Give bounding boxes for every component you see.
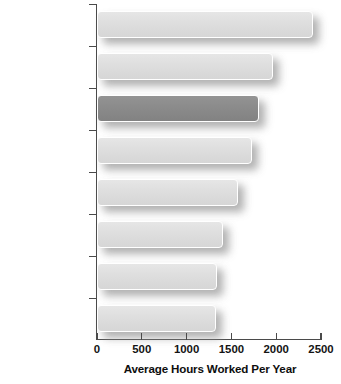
x-axis-tick-label: 2500 xyxy=(308,343,333,355)
y-axis-tick xyxy=(89,214,97,215)
x-axis-tick-label: 500 xyxy=(132,343,151,355)
bar-norway[interactable] xyxy=(97,263,217,290)
x-axis-title: Average Hours Worked Per Year xyxy=(96,362,324,375)
x-axis-tick xyxy=(96,333,97,340)
y-axis-tick xyxy=(89,130,97,131)
bar-united-kingdom[interactable] xyxy=(97,179,238,206)
bar-japan[interactable] xyxy=(97,137,252,164)
x-axis-tick-label: 2000 xyxy=(264,343,289,355)
y-axis-tick xyxy=(89,256,97,257)
x-axis-tick xyxy=(231,333,232,340)
x-axis-line xyxy=(96,339,322,340)
bar-united-states[interactable] xyxy=(97,95,259,122)
y-axis-tick xyxy=(89,88,97,89)
bar-poland[interactable] xyxy=(97,53,273,80)
y-axis-tick xyxy=(89,172,97,173)
x-axis-tick xyxy=(320,333,321,340)
plot-area: South KoreaPolandUnited StatesJapanUnite… xyxy=(0,0,341,340)
x-axis-tick xyxy=(276,333,277,340)
x-axis-tick-label: 1000 xyxy=(174,343,199,355)
bar-chart: South KoreaPolandUnited StatesJapanUnite… xyxy=(0,0,341,384)
bar-south-korea[interactable] xyxy=(97,11,313,38)
y-axis-tick xyxy=(89,46,97,47)
bar-netherlands[interactable] xyxy=(97,305,216,332)
x-axis-tick xyxy=(141,333,142,340)
x-axis-tick xyxy=(186,333,187,340)
y-axis-tick xyxy=(89,298,97,299)
x-axis-tick-label: 1500 xyxy=(219,343,244,355)
x-axis-tick-label: 0 xyxy=(94,343,100,355)
bar-france[interactable] xyxy=(97,221,223,248)
